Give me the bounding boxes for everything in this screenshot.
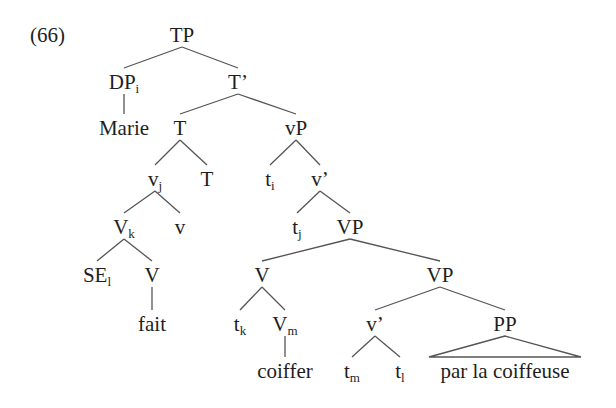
tree-node-vk: Vk: [113, 215, 135, 241]
tree-node-vp: vP: [285, 116, 307, 140]
tree-edge-v2-tk: [240, 287, 262, 310]
tree-node-ti: ti: [265, 167, 275, 193]
node-subscript: j: [157, 178, 162, 193]
node-label: TP: [170, 23, 195, 47]
tree-edge-vj-v: [155, 191, 180, 213]
tree-node-v: v: [175, 215, 186, 239]
node-label: coiffer: [257, 359, 313, 383]
tree-node-tbar: T’: [228, 70, 248, 94]
tree-edge-t1-t2: [180, 140, 207, 165]
tree-node-v1: V: [144, 263, 159, 287]
node-label: v: [148, 167, 159, 191]
example-number: (66): [30, 23, 65, 47]
tree-node-v2: V: [254, 263, 269, 287]
tree-edge-tbar-vp: [238, 94, 296, 114]
tree-nodes: TPDPiT’MarieTvPvjTtiv’VkvtjVPSElVVVPfait…: [83, 23, 570, 385]
tree-node-tj: tj: [292, 215, 301, 241]
tree-node-t2: T: [201, 167, 214, 191]
node-subscript: k: [240, 323, 247, 338]
tree-edge-vk-sel: [97, 239, 124, 261]
tree-edge-vk-v1: [124, 239, 152, 261]
tree-node-vp1: VP: [337, 215, 364, 239]
tree-edge-vp2-vbar2: [375, 287, 440, 310]
tree-node-vbar1: v’: [311, 167, 329, 191]
node-subscript: i: [136, 81, 140, 96]
tree-edge-vbar2-tm: [352, 336, 375, 357]
node-label: PP: [493, 312, 516, 336]
node-subscript: i: [271, 178, 275, 193]
node-label: V: [113, 215, 128, 239]
tree-node-dp: DPi: [109, 70, 140, 96]
tree-node-t1: T: [174, 116, 187, 140]
tree-edge-v2-vm: [262, 287, 285, 310]
tree-node-tp: TP: [170, 23, 195, 47]
node-label: SE: [83, 263, 108, 287]
tree-node-parla: par la coiffeuse: [440, 359, 569, 383]
node-subscript: k: [128, 226, 135, 241]
node-subscript: l: [401, 370, 405, 385]
tree-triangle-pp: [429, 336, 581, 357]
node-label: T’: [228, 70, 248, 94]
tree-edge-vbar1-vp1: [320, 191, 350, 213]
tree-node-vj: vj: [148, 167, 162, 193]
tree-node-coiffer: coiffer: [257, 359, 313, 383]
tree-edge-tp-tbar: [182, 47, 238, 68]
tree-node-marie: Marie: [99, 116, 149, 140]
tree-edge-vp1-vp2: [350, 239, 440, 261]
tree-node-vbar2: v’: [366, 312, 384, 336]
node-label: vP: [285, 116, 307, 140]
node-label: V: [144, 263, 159, 287]
node-label: par la coiffeuse: [440, 359, 569, 383]
tree-edge-vp1-v2: [262, 239, 350, 261]
syntax-tree: (66) TPDPiT’MarieTvPvjTtiv’VkvtjVPSElVVV…: [0, 0, 616, 408]
node-label: V: [272, 312, 287, 336]
tree-edge-vp-ti: [270, 140, 296, 165]
node-label: v: [175, 215, 186, 239]
node-label: V: [254, 263, 269, 287]
tree-edge-t1-vj: [155, 140, 180, 165]
node-subscript: l: [107, 274, 111, 289]
node-label: T: [174, 116, 187, 140]
node-label: T: [201, 167, 214, 191]
tree-edge-vp-vbar1: [296, 140, 320, 165]
node-subscript: m: [288, 323, 298, 338]
node-label: v’: [366, 312, 384, 336]
node-label: fait: [138, 312, 166, 336]
tree-node-tm: tm: [344, 359, 360, 385]
node-label: VP: [337, 215, 364, 239]
tree-edges: [97, 47, 581, 357]
node-label: VP: [427, 263, 454, 287]
node-label: Marie: [99, 116, 149, 140]
tree-edge-tp-dp: [124, 47, 182, 68]
tree-node-tk: tk: [234, 312, 247, 338]
tree-node-sel: SEl: [83, 263, 112, 289]
node-subscript: m: [350, 370, 360, 385]
tree-node-pp: PP: [493, 312, 516, 336]
tree-node-fait: fait: [138, 312, 166, 336]
node-subscript: j: [297, 226, 302, 241]
tree-edge-vbar1-tj: [297, 191, 320, 213]
tree-edge-vbar2-tl: [375, 336, 400, 357]
tree-node-vp2: VP: [427, 263, 454, 287]
tree-edge-vj-vk: [124, 191, 155, 213]
tree-edge-vp2-pp: [440, 287, 505, 310]
tree-edge-tbar-t1: [180, 94, 238, 114]
tree-node-vm: Vm: [272, 312, 297, 338]
node-label: v’: [311, 167, 329, 191]
tree-node-tl: tl: [395, 359, 405, 385]
node-label: DP: [109, 70, 136, 94]
